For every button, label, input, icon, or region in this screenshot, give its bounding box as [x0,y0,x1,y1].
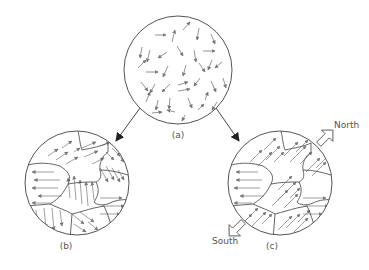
north-label: North [334,120,359,130]
panel-a: (a) [124,16,232,140]
panel-label-c: (c) [266,241,278,251]
domain-arrows-b [32,141,124,232]
arrow-a-to-c [216,108,239,141]
sample-circle-a [124,16,232,124]
south-label: South [212,236,238,246]
domain-arrows-c [234,138,328,232]
panel-label-b: (b) [60,241,73,251]
arrow-a-to-b [116,108,140,141]
panel-c: North South (c) [212,120,359,251]
panel-label-a: (a) [172,130,185,140]
domain-diagram: (a) [0,0,369,270]
panel-b: (b) [25,131,130,251]
